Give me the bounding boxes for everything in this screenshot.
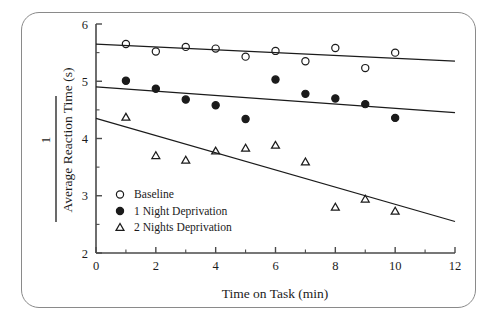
data-point-baseline-3 bbox=[182, 43, 189, 50]
trend-line-1-night-deprivation bbox=[96, 87, 455, 113]
legend-marker-1-night-deprivation bbox=[116, 207, 123, 214]
legend-label-2-nights-deprivation: 2 Nights Deprivation bbox=[134, 221, 232, 234]
y-tick-label-3: 3 bbox=[82, 189, 88, 203]
x-axis-tick-labels: 024681012 bbox=[93, 259, 461, 273]
data-point-2-nights-deprivation-2 bbox=[152, 152, 160, 159]
x-tick-label-6: 6 bbox=[272, 259, 278, 273]
y-tick-label-4: 4 bbox=[82, 132, 89, 146]
legend-item-2-nights-deprivation[interactable]: 2 Nights Deprivation bbox=[116, 221, 232, 234]
legend: Baseline1 Night Deprivation2 Nights Depr… bbox=[116, 188, 232, 234]
data-point-1-night-deprivation-4 bbox=[212, 102, 219, 109]
data-point-baseline-7 bbox=[302, 58, 309, 65]
chart-canvas: 024681012 23456 Time on Task (min) Avera… bbox=[0, 0, 497, 323]
data-point-baseline-1 bbox=[122, 40, 129, 47]
data-point-baseline-8 bbox=[332, 44, 339, 51]
data-point-baseline-10 bbox=[392, 49, 399, 56]
x-tick-label-10: 10 bbox=[389, 259, 402, 273]
data-point-baseline-5 bbox=[242, 53, 249, 60]
x-tick-label-2: 2 bbox=[153, 259, 159, 273]
data-point-1-night-deprivation-1 bbox=[122, 77, 129, 84]
legend-item-baseline[interactable]: Baseline bbox=[116, 188, 174, 201]
data-point-2-nights-deprivation-3 bbox=[182, 156, 190, 163]
y-axis-numerator: 1 bbox=[38, 137, 53, 144]
y-axis-title-group: Average Reaction Time (s) 1 bbox=[38, 68, 75, 222]
data-point-baseline-2 bbox=[152, 48, 159, 55]
data-point-2-nights-deprivation-8 bbox=[331, 203, 339, 210]
data-point-2-nights-deprivation-10 bbox=[391, 207, 399, 214]
data-point-1-night-deprivation-8 bbox=[332, 95, 339, 102]
data-point-baseline-9 bbox=[362, 64, 369, 71]
data-point-1-night-deprivation-2 bbox=[152, 85, 159, 92]
y-axis-major-ticks bbox=[96, 24, 102, 253]
x-tick-label-0: 0 bbox=[93, 259, 99, 273]
figure-root: 024681012 23456 Time on Task (min) Avera… bbox=[0, 0, 497, 323]
x-tick-label-12: 12 bbox=[449, 259, 462, 273]
x-axis-title: Time on Task (min) bbox=[222, 286, 329, 301]
legend-marker-baseline bbox=[116, 191, 123, 198]
y-tick-label-2: 2 bbox=[82, 247, 88, 261]
y-axis-title: Average Reaction Time (s) bbox=[60, 68, 75, 213]
y-tick-label-5: 5 bbox=[82, 75, 88, 89]
legend-marker-2-nights-deprivation bbox=[116, 224, 124, 231]
trend-line-baseline bbox=[96, 44, 455, 61]
data-point-2-nights-deprivation-6 bbox=[272, 141, 280, 148]
data-point-2-nights-deprivation-1 bbox=[122, 113, 130, 120]
legend-label-1-night-deprivation: 1 Night Deprivation bbox=[134, 205, 228, 218]
legend-item-1-night-deprivation[interactable]: 1 Night Deprivation bbox=[116, 205, 227, 218]
data-point-1-night-deprivation-10 bbox=[392, 114, 399, 121]
y-axis-tick-labels: 23456 bbox=[82, 18, 89, 261]
data-point-1-night-deprivation-9 bbox=[362, 101, 369, 108]
data-point-baseline-4 bbox=[212, 45, 219, 52]
x-tick-label-4: 4 bbox=[213, 259, 220, 273]
y-tick-label-6: 6 bbox=[82, 18, 88, 32]
x-axis-major-ticks bbox=[96, 247, 455, 253]
data-point-1-night-deprivation-6 bbox=[272, 76, 279, 83]
data-point-baseline-6 bbox=[272, 47, 279, 54]
data-point-1-night-deprivation-5 bbox=[242, 115, 249, 122]
data-point-2-nights-deprivation-7 bbox=[301, 158, 309, 165]
x-tick-label-8: 8 bbox=[332, 259, 338, 273]
data-point-1-night-deprivation-7 bbox=[302, 90, 309, 97]
data-point-1-night-deprivation-3 bbox=[182, 96, 189, 103]
data-point-2-nights-deprivation-5 bbox=[242, 144, 250, 151]
legend-label-baseline: Baseline bbox=[134, 188, 174, 201]
